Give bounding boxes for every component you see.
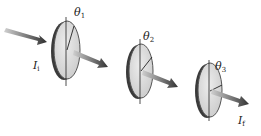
label-subscript: f (242, 120, 245, 128)
angle-label-1: θ1 (74, 7, 85, 20)
label-symbol: θ (74, 6, 81, 19)
label-symbol: θ (215, 60, 222, 73)
incident-beam-arrow (4, 28, 47, 45)
label-subscript: i (37, 65, 39, 73)
polarizer-diagram: Ii θ1 θ2 θ3 If (0, 0, 261, 136)
label-symbol: θ (143, 30, 150, 43)
label-subscript: 3 (222, 66, 226, 74)
incident-intensity-label: Ii (33, 60, 40, 73)
angle-label-2: θ2 (143, 31, 154, 44)
angle-label-3: θ3 (215, 61, 226, 74)
label-subscript: 1 (81, 12, 85, 20)
label-subscript: 2 (150, 36, 154, 44)
polarizer-2 (126, 39, 153, 104)
final-intensity-label: If (238, 115, 245, 128)
